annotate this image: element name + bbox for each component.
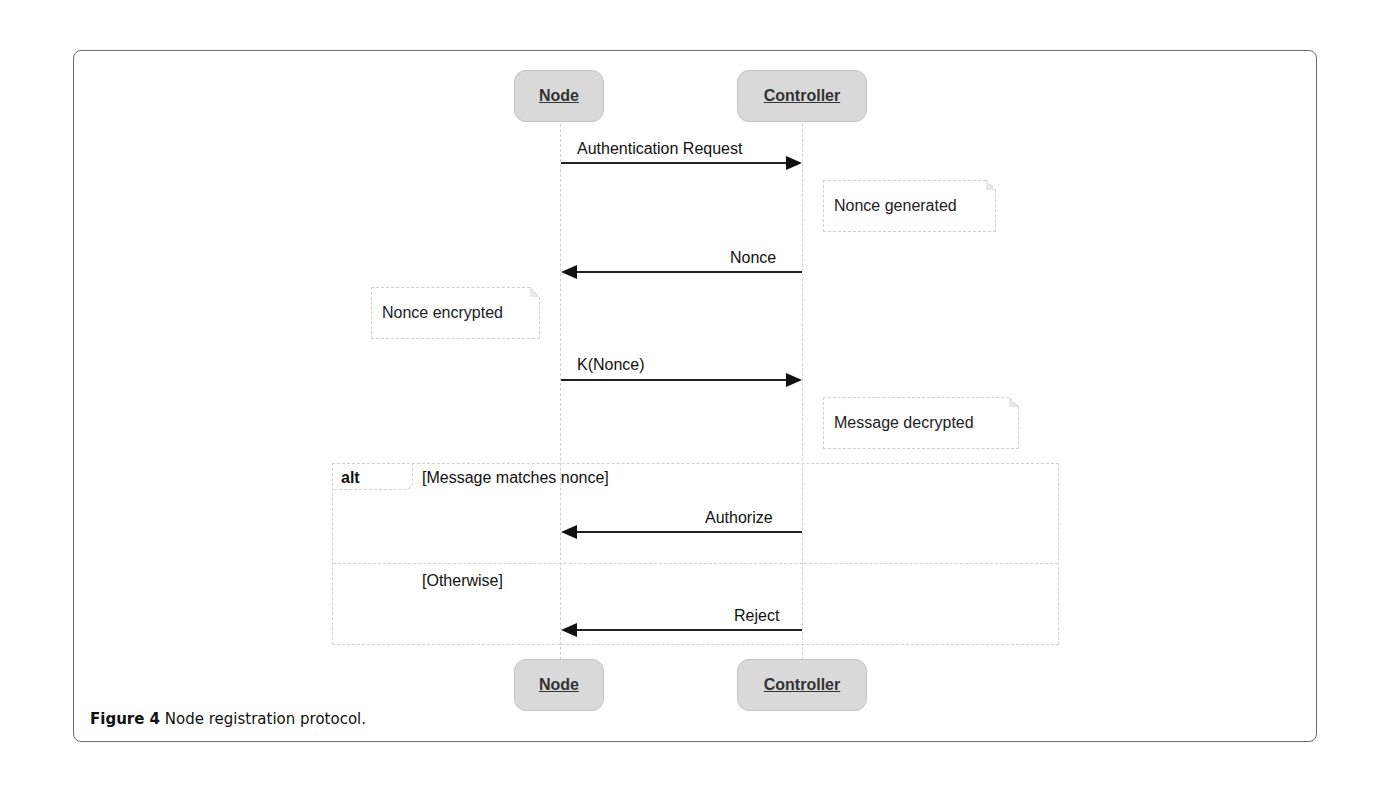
participant-node-bottom: Node: [514, 659, 604, 711]
participant-controller-bottom: Controller: [737, 659, 867, 711]
participant-node-top: Node: [514, 70, 604, 122]
arrow-head-right-icon: [786, 156, 802, 170]
message-arrow: [576, 531, 802, 533]
fragment-operator: alt: [341, 469, 360, 487]
alt-fragment: alt [Message matches nonce] [Otherwise]: [332, 463, 1059, 645]
arrow-head-left-icon: [561, 525, 577, 539]
message-arrow: [576, 271, 802, 273]
note-message-decrypted: Message decrypted: [823, 397, 1019, 449]
message-label: K(Nonce): [577, 356, 645, 374]
message-label: Authorize: [705, 509, 773, 527]
message-arrow: [576, 629, 802, 631]
participant-controller-top: Controller: [737, 70, 867, 122]
arrow-head-right-icon: [786, 373, 802, 387]
message-arrow: [561, 379, 787, 381]
arrow-head-left-icon: [561, 623, 577, 637]
guard-condition: [Message matches nonce]: [422, 469, 609, 487]
caption-label: Figure 4: [90, 710, 160, 728]
message-label: Reject: [734, 607, 779, 625]
figure-caption: Figure 4 Node registration protocol.: [90, 710, 366, 728]
caption-text: Node registration protocol.: [160, 710, 366, 728]
message-arrow: [561, 162, 787, 164]
note-nonce-generated: Nonce generated: [823, 180, 996, 232]
message-label: Nonce: [730, 249, 776, 267]
guard-condition: [Otherwise]: [422, 572, 503, 590]
fragment-divider: [333, 563, 1058, 564]
note-nonce-encrypted: Nonce encrypted: [371, 287, 540, 339]
arrow-head-left-icon: [561, 265, 577, 279]
message-label: Authentication Request: [577, 140, 742, 158]
